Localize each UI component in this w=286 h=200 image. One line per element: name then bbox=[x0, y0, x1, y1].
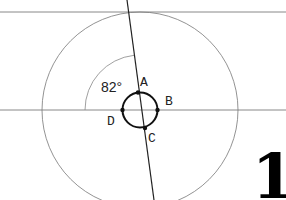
point-c bbox=[143, 126, 147, 130]
diagram-canvas: 82° A B C D 1 bbox=[0, 0, 286, 200]
point-d bbox=[120, 108, 124, 112]
point-a bbox=[136, 90, 140, 94]
point-b bbox=[155, 108, 159, 112]
point-label-b: B bbox=[165, 94, 173, 109]
slanted-line bbox=[127, 0, 154, 200]
point-label-d: D bbox=[107, 114, 115, 129]
point-label-a: A bbox=[140, 75, 148, 90]
angle-label: 82° bbox=[101, 79, 122, 95]
outer-circle bbox=[42, 12, 238, 200]
figure-number: 1 bbox=[252, 140, 286, 200]
point-label-c: C bbox=[148, 131, 156, 146]
